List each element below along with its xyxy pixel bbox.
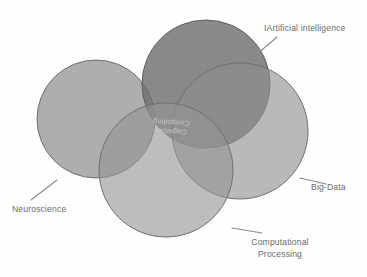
- label-computational-processing-line2: Processing: [258, 249, 302, 259]
- venn-diagram-canvas: Cognitive Computing IArtificial intellig…: [0, 0, 367, 277]
- leader-line-computational-processing: [232, 228, 262, 233]
- center-label-line2: Computing: [153, 117, 190, 128]
- label-big-data: Big-Data: [311, 182, 346, 192]
- label-neuroscience: Neuroscience: [12, 204, 66, 214]
- leader-line-neuroscience: [31, 180, 57, 200]
- label-computational-processing-line1: Computational: [251, 237, 308, 247]
- label-artificial-intelligence: IArtificial intelligence: [264, 23, 346, 33]
- center-label-group: Cognitive Computing: [152, 117, 189, 137]
- venn-diagram-figure: Cognitive Computing IArtificial intellig…: [0, 0, 367, 277]
